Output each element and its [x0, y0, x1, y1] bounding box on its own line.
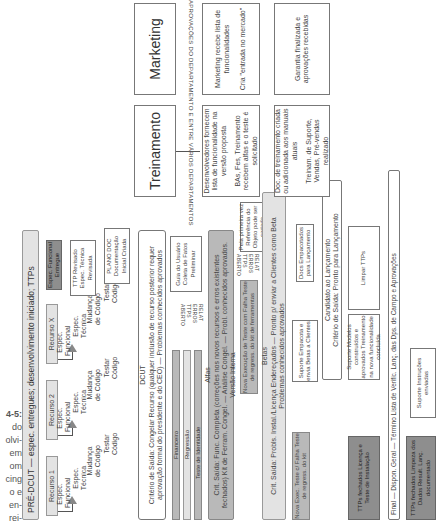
- resource-x-change: Mudança de Código: [86, 292, 103, 326]
- bar-teste-identidade-label: Teste de Identidade: [195, 427, 201, 479]
- resource-2-test: Testar Código: [103, 348, 120, 388]
- bar-regressao: Regressão: [183, 350, 191, 520]
- spec-delivered-box: Espec. Funcional Entregue: [46, 240, 62, 290]
- dcut-title: DCUT: [139, 365, 147, 384]
- betas-criteria: Crit. Saída: Probls. Instal./Licença End…: [270, 193, 287, 519]
- resource-1-test: Testar Código: [103, 424, 120, 464]
- user-guide-label: Guia do Usuário Coleta de Fatos Prelimin…: [175, 237, 197, 291]
- predcut-title: PRÉ-DCUT — espec. entregues; desenvolvim…: [26, 266, 36, 513]
- final-box: Final — Dispon. Geral — Término Lista de…: [388, 170, 400, 520]
- training-box-1-text-a: Desenvolvedores fornecem lista de funcio…: [203, 106, 228, 196]
- connector: [58, 511, 72, 512]
- betas-docs-box: Docs Empacotados para Lançamento: [296, 224, 314, 282]
- betas-support-label: Suporte Empacota e envia Betas a Cliente…: [298, 321, 312, 381]
- resource-1-change: Mudança de Código: [86, 444, 103, 478]
- marketing-box-1-text-a: Marketing recebe lista de funcionalidade…: [214, 4, 231, 94]
- predcut-title-bar: PRÉ-DCUT — espec. entregues; desenvolvim…: [22, 230, 39, 520]
- connector: [176, 151, 200, 152]
- clean-ttps-label: Limpar TTPs: [360, 251, 367, 285]
- dcut-criteria: Critério de Saída: Congelar Recurso (qua…: [148, 231, 165, 519]
- training-box-2-text-a: Doc. de treinamento criada ou adicionada…: [274, 106, 299, 196]
- resource-2-func: Espec. Funcional: [56, 404, 73, 432]
- candidate-box: Candidato ao Lançamento Critério de Saíd…: [322, 180, 342, 380]
- betas-rerun-box: Nova Exec. Teste c/ Falha Teste de regre…: [292, 432, 310, 520]
- release-process-diagram: PRÉ-DCUT — espec. entregues; desenvolvim…: [0, 0, 441, 524]
- marketing-header-box: Marketing: [134, 3, 176, 95]
- resource-1-label: Recurso 1: [48, 470, 56, 502]
- marketing-box-2-text-a: Garantia finalizada e aprovações recebid…: [294, 4, 311, 94]
- alfas-criteria: Crit. Saída: Func. Completa (correções n…: [213, 231, 238, 519]
- candidate-ttps-box: TTPs fechados Licença e Teste de Instala…: [348, 436, 380, 520]
- alfas-relat-label: RELAT ERROS TTPS ABERTO: [236, 254, 260, 274]
- training-box-1: Desenvolvedores fornecem lista de funcio…: [202, 105, 260, 197]
- alfas-box: Alfas Crit. Saída: Func. Completa (corre…: [208, 230, 234, 520]
- training-title: Treinamento: [147, 112, 164, 190]
- candidate-support-label: Suporte Modelos construídos e aprovados …: [346, 315, 382, 379]
- betas-title: Betas: [261, 347, 269, 365]
- marketing-box-1-text-b: Cria "entrada no mercado": [239, 8, 247, 90]
- resource-x-label: Recurso X: [48, 318, 56, 351]
- candidate-support-box: Suporte Modelos construídos e aprovados …: [348, 314, 380, 380]
- spec-delivered-label: Espec. Funcional Entregue: [47, 241, 61, 289]
- candidate-title: Candidato ao Lançamento: [324, 239, 332, 321]
- final-support-label: Suporte Instruções enviadas: [416, 349, 430, 417]
- marketing-title: Marketing: [147, 18, 164, 79]
- bar-financeiro-label: Financeiro: [173, 431, 179, 459]
- clean-ttps-box: Limpar TTPs: [348, 226, 380, 310]
- final-criteria: Final — Dispon. Geral — Término Lista de…: [390, 253, 398, 515]
- training-box-2: Doc. de treinamento criada ou adicionada…: [274, 105, 330, 197]
- connector: [58, 359, 72, 360]
- ttp-reviewed-box: TTP Revisado Espec. Técnica Revisada: [70, 240, 96, 296]
- training-header-box: Treinamento: [134, 105, 176, 197]
- dcut-relat-label: RELAT ERROS TTPS ABERTO: [180, 304, 204, 334]
- resource-2-label: Recurso 2: [48, 394, 56, 426]
- alfas-title: Alfas: [204, 367, 212, 383]
- connector: [58, 435, 72, 436]
- plan-doc-label: PLANO DOC Documentação Inicial Criada: [106, 229, 128, 283]
- first-ref-box: Pela primeira vez Referência do Objeto p…: [240, 202, 264, 252]
- alfas-rerun-box: Nova Execução de Teste com Falha Teste d…: [240, 280, 258, 394]
- candidate-ttps-label: TTPs fechados Licença e Teste de Instala…: [357, 437, 371, 519]
- marketing-box-2: Garantia finalizada e aprovações recebid…: [274, 3, 330, 95]
- resource-2-change: Mudança de Código: [86, 368, 103, 402]
- plan-doc-box: PLANO DOC Documentação Inicial Criada: [104, 228, 130, 284]
- betas-box: Betas Crit. Saída: Probls. Instal./Licen…: [262, 192, 286, 520]
- approvals-label: APROVAÇÕES DO DEPARTAMENTO E ENTRE VÁRIO…: [188, 0, 194, 198]
- marketing-box-1: Marketing recebe lista de funcionalidade…: [202, 3, 260, 95]
- resource-x-func: Espec. Funcional: [56, 328, 73, 356]
- resource-1-func: Espec. Funcional: [56, 480, 73, 508]
- betas-support-box: Suporte Empacota e envia Betas a Cliente…: [292, 320, 318, 382]
- betas-docs-label: Docs Empacotados para Lançamento: [298, 225, 312, 281]
- dcut-box: DCUT Critério de Saída: Congelar Recurso…: [138, 230, 166, 520]
- final-support-box: Suporte Instruções enviadas: [410, 348, 436, 418]
- ttp-reviewed-label: TTP Revisado Espec. Técnica Revisada: [72, 241, 94, 295]
- user-guide-box: Guia do Usuário Coleta de Fatos Prelimin…: [170, 236, 202, 292]
- training-box-1-text-b: BAs, Fes, Treinamento recebem alfas e o …: [234, 106, 259, 196]
- training-box-2-text-b: Treinam. de Suporte, Vendas, Pré-vendas …: [305, 106, 330, 196]
- bar-regressao-label: Regressão: [184, 430, 190, 459]
- final-ttps-box: TTPs fechados Limpeza dos Dados Result. …: [406, 436, 436, 520]
- final-ttps-label: TTPs fechados Limpeza dos Dados Result. …: [410, 437, 432, 519]
- alfas-rerun-label: Nova Execução de Teste com Falha Teste d…: [242, 281, 256, 393]
- candidate-criteria: Critério de Saída: Pronto para Lançament…: [332, 213, 340, 346]
- bar-teste-identidade: Teste de Identidade: [194, 350, 202, 520]
- betas-rerun-label: Nova Exec. Teste c/ Falha Teste de regre…: [294, 433, 308, 519]
- bar-financeiro: Financeiro: [172, 350, 180, 520]
